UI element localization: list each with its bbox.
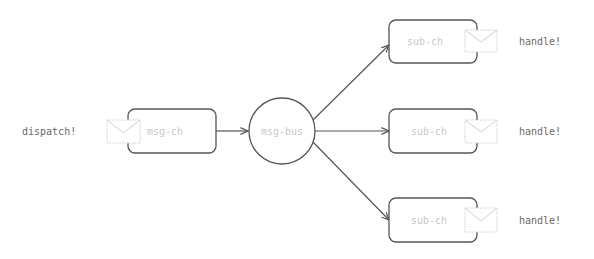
dispatch-label: dispatch! [22,126,76,137]
envelope-icon [465,30,497,52]
envelope-icon [465,208,497,232]
envelope-icon [465,120,497,143]
sub-ch-label: sub-ch [407,36,443,47]
msg-bus-label: msg-bus [261,126,303,137]
edge-bus-to-sub-1 [311,45,389,122]
subscriber-node-3: sub-ch handle! [389,198,561,242]
sub-ch-label: sub-ch [411,126,447,137]
source-node: dispatch! msg-ch [22,109,216,153]
envelope-icon [107,120,140,143]
msg-ch-label: msg-ch [147,126,183,137]
sub-ch-label: sub-ch [411,215,447,226]
handle-label: handle! [519,215,561,226]
handle-label: handle! [519,126,561,137]
edge-bus-to-sub-3 [311,140,389,220]
handle-label: handle! [519,36,561,47]
subscriber-node-1: sub-ch handle! [389,20,561,63]
pubsub-diagram: dispatch! msg-ch msg-bus sub-ch handle! … [0,0,594,259]
subscriber-node-2: sub-ch handle! [389,109,561,153]
bus-node: msg-bus [249,98,315,164]
